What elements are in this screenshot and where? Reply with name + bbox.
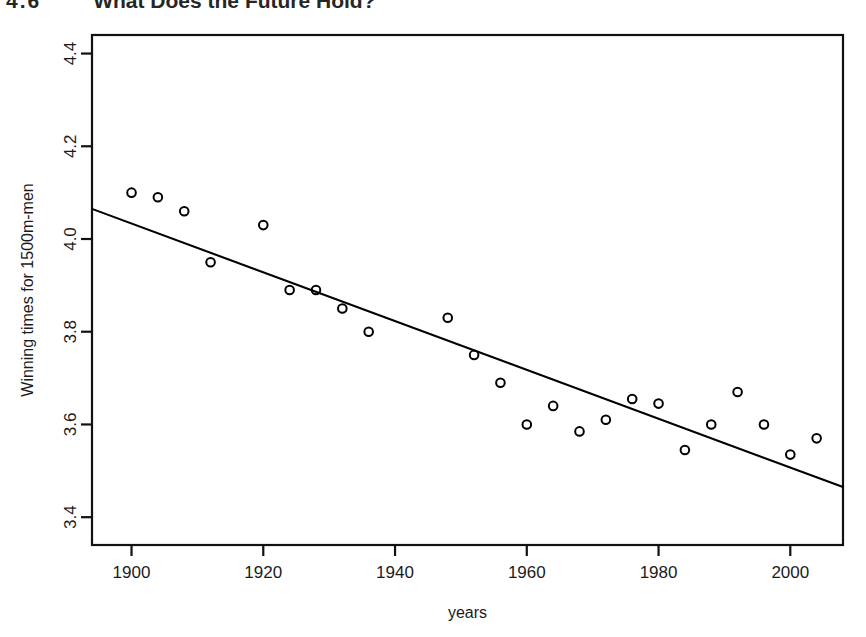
- data-point: [206, 258, 215, 267]
- y-tick-label: 4.2: [61, 134, 80, 158]
- data-point: [575, 427, 584, 436]
- slide-number: 4.6: [6, 0, 41, 13]
- plot-frame: [92, 35, 843, 545]
- page-title: What Does the Future Hold?: [93, 0, 375, 13]
- data-point: [707, 420, 716, 429]
- data-point: [522, 420, 531, 429]
- data-point: [154, 193, 163, 202]
- y-tick-label: 4.4: [61, 42, 80, 66]
- regression-line: [92, 209, 843, 487]
- data-point: [812, 434, 821, 443]
- slide-root: 4.6 What Does the Future Hold? 190019201…: [0, 0, 866, 637]
- slide-title-bar: 4.6 What Does the Future Hold?: [0, 0, 866, 15]
- x-tick-label: 2000: [771, 563, 809, 582]
- data-point: [180, 207, 189, 216]
- x-tick-label: 1960: [508, 563, 546, 582]
- data-point: [364, 327, 373, 336]
- plot-border: [92, 35, 843, 545]
- y-axis-label: Winning times for 1500m-men: [19, 183, 36, 396]
- data-point: [285, 286, 294, 295]
- data-point: [549, 402, 558, 411]
- x-tick-label: 1940: [376, 563, 414, 582]
- data-point: [470, 351, 479, 360]
- data-point: [602, 416, 611, 425]
- data-point: [760, 420, 769, 429]
- x-tick-label: 1980: [640, 563, 678, 582]
- data-point: [259, 221, 268, 230]
- data-point: [681, 446, 690, 455]
- chart-canvas: 190019201940196019802000 3.43.63.84.04.2…: [0, 15, 866, 637]
- y-tick-label: 3.4: [61, 505, 80, 529]
- data-point: [654, 399, 663, 408]
- data-point: [786, 450, 795, 459]
- data-point: [496, 378, 505, 387]
- data-point: [338, 304, 347, 313]
- y-axis-ticks: 3.43.63.84.04.24.4: [61, 42, 92, 529]
- x-axis-label: years: [448, 604, 487, 621]
- data-point-group: [127, 188, 821, 459]
- y-tick-label: 4.0: [61, 227, 80, 251]
- x-tick-label: 1900: [113, 563, 151, 582]
- data-point: [733, 388, 742, 397]
- scatter-plot-figure: 190019201940196019802000 3.43.63.84.04.2…: [0, 15, 866, 637]
- data-point: [127, 188, 136, 197]
- x-axis-ticks: 190019201940196019802000: [113, 545, 810, 582]
- data-point: [443, 314, 452, 323]
- y-tick-label: 3.8: [61, 320, 80, 344]
- y-tick-label: 3.6: [61, 413, 80, 437]
- x-tick-label: 1920: [244, 563, 282, 582]
- data-point: [628, 395, 637, 404]
- trend-line-segment: [92, 209, 843, 487]
